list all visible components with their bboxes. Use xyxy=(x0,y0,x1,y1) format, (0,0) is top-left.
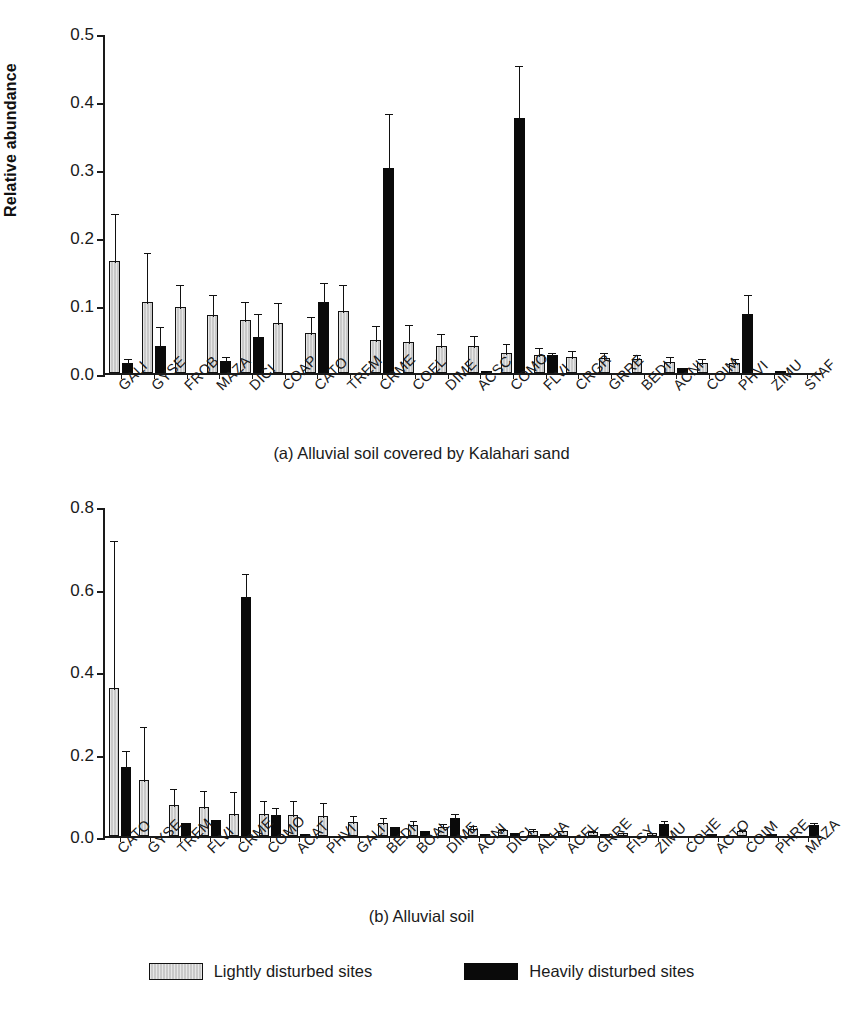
error-bar-cap xyxy=(242,574,249,575)
y-axis-tick xyxy=(97,508,105,510)
error-bar-cap xyxy=(744,295,752,296)
error-bar-cap xyxy=(666,357,674,358)
error-bar-cap xyxy=(156,327,164,328)
y-axis-tick xyxy=(97,756,105,758)
error-bar-cap xyxy=(470,336,478,337)
error-bar xyxy=(144,727,145,782)
error-bar xyxy=(324,283,325,303)
error-bar-cap xyxy=(272,808,279,809)
error-bar-cap xyxy=(339,285,347,286)
y-axis-tick xyxy=(97,171,105,173)
error-bar xyxy=(311,317,312,335)
y-axis-tick xyxy=(97,35,105,37)
y-axis-tick-label: 0.1 xyxy=(70,297,94,317)
error-bar-cap xyxy=(200,791,207,792)
error-bar-cap xyxy=(405,325,413,326)
error-bar xyxy=(126,751,127,769)
error-bar-cap xyxy=(515,66,523,67)
error-bar-cap xyxy=(176,285,184,286)
error-bar-cap xyxy=(320,283,328,284)
error-bar-cap xyxy=(222,357,230,358)
error-bar xyxy=(258,314,259,339)
error-bar-cap xyxy=(230,792,237,793)
error-bar-cap xyxy=(170,789,177,790)
legend-label-light: Lightly disturbed sites xyxy=(214,962,373,981)
error-bar xyxy=(353,816,354,824)
legend: Lightly disturbed sites Heavily disturbe… xyxy=(0,962,843,981)
y-axis-tick-label: 0.4 xyxy=(70,93,94,113)
error-bar-cap xyxy=(140,727,147,728)
error-bar-cap xyxy=(372,326,380,327)
y-axis-tick-label: 0.5 xyxy=(70,25,94,45)
error-bar xyxy=(519,66,520,120)
error-bar-cap xyxy=(254,314,262,315)
y-axis-tick xyxy=(97,307,105,309)
y-axis-tick-label: 0.8 xyxy=(70,498,94,518)
error-bar xyxy=(180,285,181,309)
y-axis-tick-label: 0.0 xyxy=(70,365,94,385)
error-bar xyxy=(204,791,205,809)
error-bar-cap xyxy=(209,295,217,296)
error-bar xyxy=(376,326,377,342)
legend-swatch-light-icon xyxy=(149,963,203,980)
plot-area-b: 0.00.20.40.60.8 xyxy=(103,508,821,838)
error-bar xyxy=(114,541,115,690)
y-axis-tick xyxy=(97,591,105,593)
error-bar-cap xyxy=(144,253,152,254)
error-bar xyxy=(276,808,277,817)
error-bar-cap xyxy=(110,541,117,542)
error-bar-cap xyxy=(274,303,282,304)
error-bar xyxy=(572,351,573,359)
error-bar-cap xyxy=(307,317,315,318)
error-bar xyxy=(160,327,161,348)
y-axis-tick xyxy=(97,103,105,105)
y-axis-tick-label: 0.2 xyxy=(70,229,94,249)
error-bar-cap xyxy=(451,814,458,815)
error-bar-cap xyxy=(661,821,668,822)
y-axis-tick-label: 0.6 xyxy=(70,581,94,601)
error-bar-cap xyxy=(548,353,556,354)
y-axis-tick-label: 0.2 xyxy=(70,746,94,766)
y-axis-tick-label: 0.3 xyxy=(70,161,94,181)
error-bar xyxy=(748,295,749,315)
figure-root: Relative abundance 0.00.10.20.30.40.5 (a… xyxy=(0,0,843,1016)
y-axis-tick xyxy=(97,838,105,840)
error-bar-cap xyxy=(437,334,445,335)
error-bar xyxy=(343,285,344,313)
bar-light xyxy=(109,261,120,373)
error-bar xyxy=(174,789,175,807)
legend-item-heavy: Heavily disturbed sites xyxy=(464,962,694,981)
error-bar xyxy=(409,325,410,343)
error-bar xyxy=(389,114,390,170)
error-bar xyxy=(147,253,148,304)
panel-b-caption: (b) Alluvial soil xyxy=(0,907,843,926)
error-bar-cap xyxy=(503,344,511,345)
error-bar-cap xyxy=(290,801,297,802)
y-axis-tick-label: 0.0 xyxy=(70,828,94,848)
error-bar xyxy=(115,214,116,263)
error-bar-cap xyxy=(320,803,327,804)
bar-heavy xyxy=(514,118,525,373)
bar-light xyxy=(273,323,284,373)
bar-heavy xyxy=(241,597,251,836)
y-axis-tick-label: 0.4 xyxy=(70,663,94,683)
error-bar xyxy=(474,336,475,349)
error-bar xyxy=(278,303,279,325)
legend-swatch-heavy-icon xyxy=(464,963,518,980)
bar-heavy xyxy=(383,168,394,373)
error-bar xyxy=(670,357,671,364)
error-bar xyxy=(245,302,246,322)
error-bar-cap xyxy=(350,816,357,817)
error-bar-cap xyxy=(810,823,817,824)
error-bar xyxy=(506,344,507,355)
error-bar xyxy=(383,818,384,825)
panel-a-caption: (a) Alluvial soil covered by Kalahari sa… xyxy=(0,444,843,463)
error-bar-cap xyxy=(122,751,129,752)
legend-label-heavy: Heavily disturbed sites xyxy=(529,962,694,981)
error-bar xyxy=(213,295,214,317)
error-bar-cap xyxy=(111,214,119,215)
error-bar-cap xyxy=(380,818,387,819)
error-bar xyxy=(441,334,442,348)
y-axis-tick xyxy=(97,375,105,377)
y-axis-tick xyxy=(97,673,105,675)
